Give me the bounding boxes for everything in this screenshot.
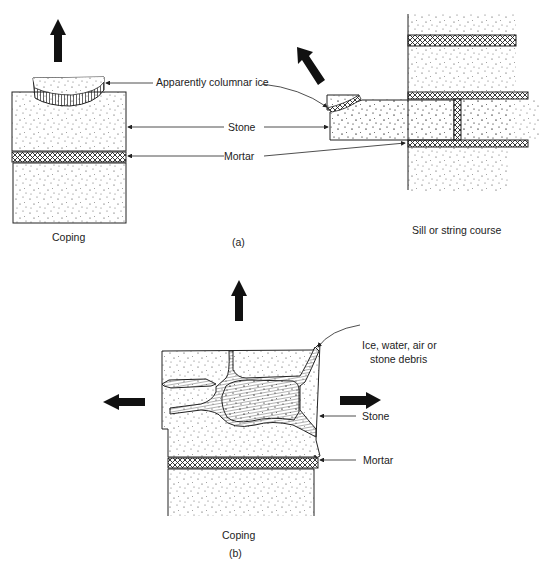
up-arrow-icon <box>50 19 66 62</box>
up-arrow-icon <box>231 280 247 321</box>
right-arrow-icon <box>340 392 381 409</box>
coping-b <box>103 280 381 516</box>
caption-a: (a) <box>232 236 245 248</box>
title-sill: Sill or string course <box>412 224 501 236</box>
label-ice-debris-line2: stone debris <box>370 353 427 365</box>
label-columnar-ice: Apparently columnar ice <box>156 76 269 88</box>
sill-a <box>297 14 540 192</box>
diagram-canvas <box>0 0 540 563</box>
title-coping-b: Coping <box>222 529 255 541</box>
coping-a <box>12 8 126 223</box>
label-stone-a: Stone <box>228 121 255 133</box>
leaders-b <box>318 325 360 460</box>
label-mortar-b: Mortar <box>363 454 393 466</box>
title-coping-a: Coping <box>52 231 85 243</box>
label-stone-b: Stone <box>362 410 389 422</box>
label-mortar-a: Mortar <box>224 150 254 162</box>
label-ice-debris-line1: Ice, water, air or <box>362 339 437 351</box>
diagonal-arrow-icon <box>297 47 325 85</box>
left-arrow-icon <box>103 394 145 410</box>
caption-b: (b) <box>229 547 242 559</box>
